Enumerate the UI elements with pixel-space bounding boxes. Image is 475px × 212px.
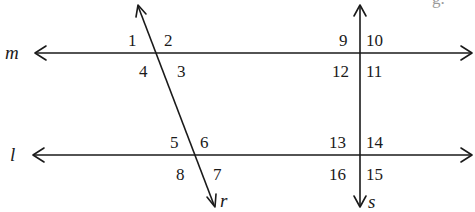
- line-m-label: m: [5, 42, 19, 63]
- parallel-lines-diagram: g. m l r s 1 2 3 4 5 6 7 8 9 10 11 12 13…: [0, 0, 475, 212]
- angle-13-label: 13: [329, 133, 346, 152]
- angle-4-label: 4: [139, 62, 148, 81]
- angle-6-label: 6: [200, 133, 209, 152]
- angle-16-label: 16: [329, 165, 346, 184]
- angle-8-label: 8: [176, 165, 185, 184]
- line-l: [33, 148, 472, 162]
- angle-12-label: 12: [332, 62, 349, 81]
- angle-9-label: 9: [339, 31, 348, 50]
- line-l-label: l: [10, 144, 15, 165]
- angle-15-label: 15: [366, 165, 383, 184]
- angle-7-label: 7: [213, 165, 222, 184]
- angle-2-label: 2: [164, 31, 173, 50]
- transversal-r-label: r: [220, 190, 228, 211]
- angle-14-label: 14: [366, 133, 384, 152]
- angle-11-label: 11: [366, 62, 382, 81]
- line-m: [35, 46, 472, 60]
- angle-5-label: 5: [170, 133, 179, 152]
- transversal-s-label: s: [368, 191, 375, 212]
- angle-1-label: 1: [128, 31, 137, 50]
- partial-caption-text: g.: [432, 0, 445, 8]
- transversal-s: [354, 5, 366, 207]
- angle-3-label: 3: [177, 62, 186, 81]
- angle-10-label: 10: [366, 31, 383, 50]
